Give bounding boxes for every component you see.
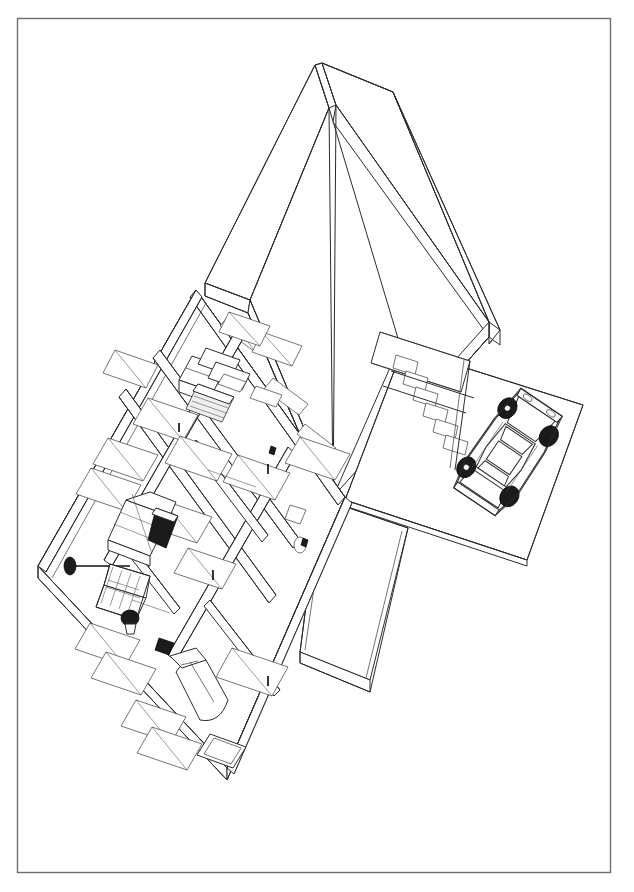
plant-pot — [125, 624, 136, 634]
page-canvas: Isometric cutaway house illustration sin… — [0, 0, 634, 892]
isometric-house-drawing — [0, 0, 634, 892]
lamp-shade — [64, 557, 76, 575]
